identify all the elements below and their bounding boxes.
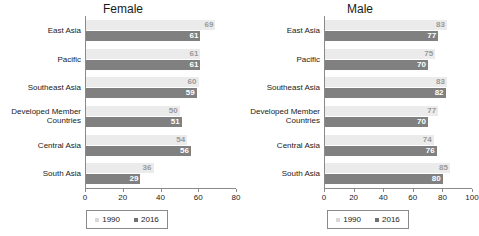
x-axis-tick <box>324 189 325 192</box>
legend-label: 1990 <box>343 215 361 225</box>
bar-value-label: 69 <box>204 20 213 30</box>
bar-value-label: 36 <box>143 163 152 173</box>
bar-2016: 82 <box>325 88 446 98</box>
category-label: Southeast Asia <box>0 73 81 102</box>
bar-value-label: 75 <box>424 49 433 59</box>
x-axis-tick-label: 60 <box>194 193 203 202</box>
bar-row: 36 <box>86 163 236 173</box>
bar-2016: 29 <box>86 174 140 184</box>
bar-value-label: 82 <box>435 88 444 98</box>
bar-1990: 36 <box>86 163 154 173</box>
category-axis-male: East Asia Pacific Southeast Asia Develop… <box>236 16 324 188</box>
x-axis-tick <box>413 189 414 192</box>
bar-2016: 80 <box>325 174 443 184</box>
legend-item-1990: 1990 <box>336 215 361 225</box>
x-axis-female: 020406080 <box>0 188 236 210</box>
bar-value-label: 56 <box>180 146 189 156</box>
bar-group: 85 80 <box>325 159 472 188</box>
bar-value-label: 80 <box>432 174 441 184</box>
legend-swatch-icon <box>375 218 379 222</box>
bar-row: 60 <box>86 77 236 87</box>
category-label: East Asia <box>0 16 81 45</box>
x-axis-tick-label: 20 <box>118 193 127 202</box>
x-axis-tick-label: 40 <box>379 193 388 202</box>
bar-2016: 76 <box>325 146 437 156</box>
bar-row: 59 <box>86 88 236 98</box>
x-axis-tick-label: 0 <box>322 193 326 202</box>
bar-2016: 56 <box>86 146 191 156</box>
category-label: Pacific <box>236 45 320 74</box>
x-axis-tick <box>383 189 384 192</box>
bar-2016: 61 <box>86 60 200 70</box>
bar-2016: 77 <box>325 31 438 41</box>
legend-item-1990: 1990 <box>95 215 120 225</box>
legend-item-2016: 2016 <box>375 215 400 225</box>
x-axis-male: 020406080100 <box>236 188 472 210</box>
bar-value-label: 61 <box>189 31 198 41</box>
category-label: Southeast Asia <box>236 73 320 102</box>
bar-row: 69 <box>86 20 236 30</box>
legend-label: 2016 <box>382 215 400 225</box>
bar-group: 83 77 <box>325 16 472 45</box>
bar-row: 61 <box>86 31 236 41</box>
bar-row: 70 <box>325 117 472 127</box>
bar-value-label: 70 <box>417 60 426 70</box>
bar-group: 74 76 <box>325 131 472 160</box>
plot-area-male: East Asia Pacific Southeast Asia Develop… <box>236 16 472 188</box>
bar-row: 82 <box>325 88 472 98</box>
bar-1990: 60 <box>86 77 199 87</box>
bars-area-female: 69 61 61 61 60 59 50 51 54 56 <box>85 16 236 188</box>
plot-area-female: East Asia Pacific Southeast Asia Develop… <box>0 16 236 188</box>
bar-value-label: 83 <box>436 20 445 30</box>
bar-value-label: 77 <box>427 106 436 116</box>
bar-row: 83 <box>325 77 472 87</box>
category-label: Developed Member Countries <box>236 102 320 131</box>
x-axis-tick <box>472 189 473 192</box>
category-label: South Asia <box>0 159 81 188</box>
bar-value-label: 70 <box>417 117 426 127</box>
bar-value-label: 76 <box>426 146 435 156</box>
bar-group: 77 70 <box>325 102 472 131</box>
bar-2016: 70 <box>325 60 428 70</box>
chart-title-male: Male <box>236 0 472 16</box>
bar-1990: 83 <box>325 20 447 30</box>
bar-group: 75 70 <box>325 45 472 74</box>
bar-row: 70 <box>325 60 472 70</box>
bar-1990: 77 <box>325 106 438 116</box>
bar-value-label: 61 <box>189 49 198 59</box>
x-axis-tick <box>123 189 124 192</box>
x-axis-tick-label: 40 <box>156 193 165 202</box>
bar-value-label: 61 <box>189 60 198 70</box>
bar-value-label: 77 <box>427 31 436 41</box>
category-axis-female: East Asia Pacific Southeast Asia Develop… <box>0 16 85 188</box>
bar-group: 50 51 <box>86 102 236 131</box>
x-axis-tick <box>161 189 162 192</box>
x-axis-tick <box>85 189 86 192</box>
bar-1990: 83 <box>325 77 447 87</box>
legend-swatch-icon <box>134 218 138 222</box>
x-axis-track: 020406080100 <box>324 188 472 210</box>
x-axis-tick-label: 100 <box>465 193 478 202</box>
category-label: South Asia <box>236 159 320 188</box>
bar-1990: 61 <box>86 49 200 59</box>
x-axis-tick <box>198 189 199 192</box>
bar-row: 54 <box>86 135 236 145</box>
bar-2016: 70 <box>325 117 428 127</box>
x-axis-tick-label: 60 <box>408 193 417 202</box>
bar-1990: 69 <box>86 20 215 30</box>
x-axis-track: 020406080 <box>85 188 236 210</box>
category-label: Central Asia <box>0 131 81 160</box>
legend-box: 1990 2016 <box>327 210 409 229</box>
bar-value-label: 85 <box>439 163 448 173</box>
x-axis-tick-label: 0 <box>83 193 87 202</box>
bar-group: 61 61 <box>86 45 236 74</box>
bar-row: 56 <box>86 146 236 156</box>
bar-row: 74 <box>325 135 472 145</box>
category-label: Central Asia <box>236 131 320 160</box>
chart-title-female: Female <box>0 0 236 16</box>
bars-area-male: 83 77 75 70 83 82 77 70 74 76 <box>324 16 472 188</box>
bar-row: 77 <box>325 106 472 116</box>
legend-label: 1990 <box>102 215 120 225</box>
bar-row: 61 <box>86 60 236 70</box>
